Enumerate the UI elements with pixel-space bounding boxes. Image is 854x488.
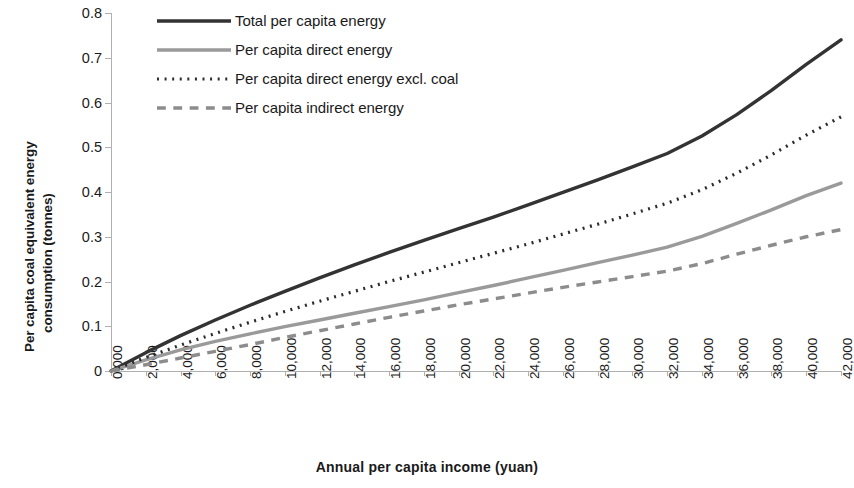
series-line-2	[111, 117, 841, 371]
y-tick-label: 0.6	[40, 95, 102, 111]
legend-item-3[interactable]: Per capita indirect energy	[157, 93, 577, 122]
y-tick-label: 0.7	[40, 50, 102, 66]
legend-item-2[interactable]: Per capita direct energy excl. coal	[157, 64, 577, 93]
legend-swatch-icon	[157, 72, 231, 86]
y-axis-title-line-1: Per capita coal equivalent energy	[22, 141, 37, 352]
x-axis-title: Annual per capita income (yuan)	[0, 459, 854, 475]
legend-swatch-icon	[157, 101, 231, 115]
y-axis-title-line-2: consumption (tonnes)	[40, 193, 55, 333]
y-tick-label: 0.2	[40, 274, 102, 290]
chart-legend: Total per capita energyPer capita direct…	[157, 6, 577, 122]
x-tick-label: 42,000	[840, 338, 854, 379]
y-tick-label: 0.8	[40, 5, 102, 21]
legend-label: Per capita direct energy	[235, 41, 392, 58]
y-tick-label: 0	[40, 363, 102, 379]
y-tick-label: 0.3	[40, 229, 102, 245]
y-tick-label: 0.1	[40, 318, 102, 334]
legend-label: Per capita direct energy excl. coal	[235, 70, 458, 87]
series-line-3	[111, 230, 841, 371]
legend-item-0[interactable]: Total per capita energy	[157, 6, 577, 35]
y-tick-label: 0.5	[40, 139, 102, 155]
series-line-1	[111, 183, 841, 371]
legend-swatch-icon	[157, 43, 231, 57]
legend-swatch-icon	[157, 14, 231, 28]
legend-label: Per capita indirect energy	[235, 99, 404, 116]
chart-container: Per capita coal equivalent energy consum…	[0, 0, 854, 488]
y-tick-label: 0.4	[40, 184, 102, 200]
legend-label: Total per capita energy	[235, 12, 386, 29]
legend-item-1[interactable]: Per capita direct energy	[157, 35, 577, 64]
